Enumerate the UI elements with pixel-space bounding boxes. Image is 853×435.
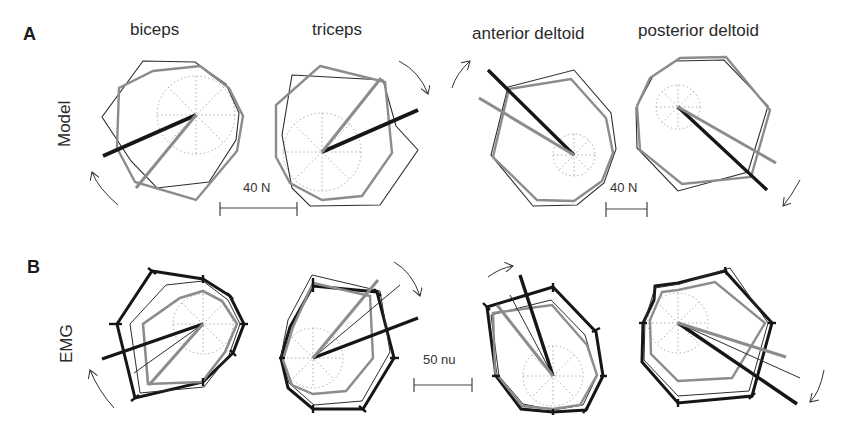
rotation-arrow-icon — [394, 262, 420, 296]
rotation-arrow-icon — [92, 172, 118, 205]
scale-bar-40n-a — [220, 202, 297, 216]
rotation-arrow-icon — [488, 266, 513, 277]
emg-triceps-plot — [279, 262, 420, 413]
rotation-arrow-icon — [452, 61, 470, 88]
emg-anterior-deltoid-plot — [483, 266, 607, 415]
figure: A B biceps triceps anterior deltoid post… — [0, 0, 853, 435]
rotation-arrow-icon — [399, 61, 428, 94]
figure-graphics — [0, 0, 853, 435]
emg-biceps-plot — [90, 268, 248, 408]
model-triceps-plot — [276, 61, 428, 206]
model-posterior-deltoid-plot — [636, 57, 800, 206]
rotation-arrow-icon — [90, 370, 114, 408]
rotation-arrow-icon — [810, 370, 824, 402]
emg-posterior-deltoid-plot — [639, 267, 824, 407]
rotation-arrow-icon — [783, 180, 800, 206]
model-anterior-deltoid-plot — [452, 61, 616, 206]
scale-bar-40n-b — [606, 202, 647, 217]
scale-bar-50nu — [414, 378, 472, 392]
model-biceps-plot — [92, 61, 243, 205]
